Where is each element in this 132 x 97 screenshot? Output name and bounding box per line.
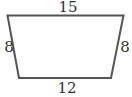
right-side-label: 8 (120, 38, 130, 56)
trapezoid-diagram: 15 8 8 12 (0, 0, 132, 97)
trapezoid-shape (8, 16, 124, 79)
top-side-label: 15 (58, 0, 77, 16)
left-side-label: 8 (4, 38, 14, 56)
bottom-side-label: 12 (57, 79, 76, 97)
